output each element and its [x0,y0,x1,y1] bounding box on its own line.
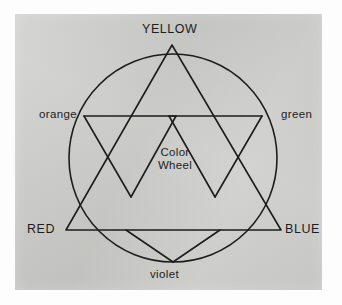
label-violet: violet [150,268,179,281]
center-caption-line-1: Color [146,146,204,159]
label-green: green [281,108,312,121]
label-blue: BLUE [285,222,320,236]
center-caption: Color Wheel [146,146,204,172]
scanned-figure-page: YELLOW RED BLUE orange green violet Colo… [0,0,342,305]
label-red: RED [27,222,55,236]
center-caption-line-2: Wheel [146,159,204,172]
label-orange: orange [39,108,77,121]
label-yellow: YELLOW [142,22,197,36]
